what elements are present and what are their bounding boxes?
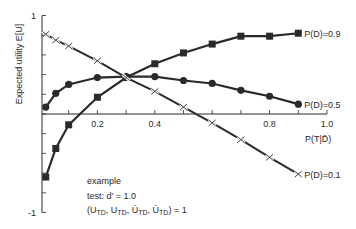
circle-marker [151, 73, 158, 80]
formula-term: UTD [90, 205, 106, 215]
formula-term: ŪTD [153, 205, 169, 215]
square-marker [237, 33, 244, 40]
x-tick-label: 0.4 [149, 119, 162, 129]
x-tick-label: 0.2 [91, 119, 104, 129]
square-marker [65, 121, 72, 128]
circle-marker [237, 87, 244, 94]
formula-terms: UTD, UTD, ŪTD, ŪTD [90, 205, 168, 215]
square-marker [266, 33, 273, 40]
annotation-test: test: d' = 1.0 [87, 191, 136, 201]
y-tick-label: 1 [31, 11, 36, 21]
y-axis-label: Expected utility E[U] [14, 24, 24, 105]
circle-marker [42, 104, 49, 111]
axes [42, 16, 327, 213]
formula-term: ŪTD [132, 205, 148, 215]
square-marker [52, 145, 59, 152]
circle-marker [209, 80, 216, 87]
expected-utility-chart: 0.20.40.81.01-1Expected utility E[U]P(T|… [0, 0, 356, 229]
y-tick-label: -1 [28, 208, 36, 218]
circle-marker [180, 77, 187, 84]
series-label: P(D)=0.9 [304, 29, 340, 39]
square-marker [42, 174, 49, 181]
square-marker [209, 41, 216, 48]
series-label: P(D)=0.1 [304, 170, 340, 180]
x-tick-label: 0.8 [263, 119, 276, 129]
annotation-example: example [87, 176, 121, 186]
square-marker [180, 49, 187, 56]
circle-marker [52, 90, 59, 97]
series-line [46, 77, 299, 108]
annotation-formula: (UTD, UTD, ŪTD, ŪTD) = 1 [87, 205, 187, 216]
circle-marker [94, 74, 101, 81]
circle-marker [266, 93, 273, 100]
x-tick-label: 1.0 [321, 119, 334, 129]
series-line [46, 34, 299, 174]
square-marker [151, 60, 158, 67]
formula-term: UTD [111, 205, 127, 215]
x-axis-label: P(T|D̄) [305, 134, 331, 144]
circle-marker [65, 81, 72, 88]
square-marker [295, 30, 302, 37]
series-lines [42, 30, 302, 181]
series-label: P(D)=0.5 [304, 100, 340, 110]
square-marker [94, 94, 101, 101]
circle-marker [295, 101, 302, 108]
